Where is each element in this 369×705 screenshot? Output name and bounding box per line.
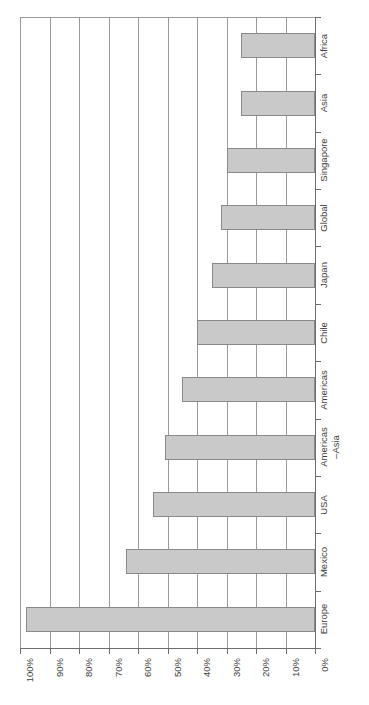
category-axis-label: Mexico [318, 533, 329, 591]
bar [212, 263, 315, 288]
value-axis-tick [79, 648, 80, 654]
category-axis-label: Japan [318, 246, 329, 304]
category-axis-label: Global [318, 189, 329, 247]
category-axis-label: Europe [318, 590, 329, 648]
bar [221, 205, 315, 230]
category-axis-line [315, 17, 316, 648]
gridline [79, 17, 80, 648]
bar [241, 33, 315, 58]
bar-chart: AfricaAsiaSingaporeGlobalJapanChileAmeri… [0, 0, 369, 705]
category-axis-label: Africa [318, 17, 329, 75]
value-axis-tick [227, 648, 228, 654]
value-axis-tick [109, 648, 110, 654]
value-axis-tick-label: 50% [172, 658, 183, 698]
bar [182, 377, 315, 402]
value-axis-tick-label: 70% [113, 658, 124, 698]
value-axis-tick [197, 648, 198, 654]
category-axis-label: Chile [318, 304, 329, 362]
value-axis-tick-label: 60% [142, 658, 153, 698]
value-axis-tick-label: 10% [290, 658, 301, 698]
category-axis-label: Singapore [318, 131, 329, 189]
category-axis-label: Americas –Asia [318, 418, 341, 476]
value-axis-tick-label: 40% [201, 658, 212, 698]
value-axis-tick [20, 648, 21, 654]
category-axis-label: USA [318, 476, 329, 534]
bar [197, 320, 315, 345]
gridline [109, 17, 110, 648]
bar [241, 91, 315, 116]
value-axis-tick-label: 80% [83, 658, 94, 698]
value-axis-tick-label: 100% [24, 658, 35, 698]
bar [126, 549, 315, 574]
value-axis-tick [315, 648, 316, 654]
value-axis-tick [286, 648, 287, 654]
bar [26, 607, 315, 632]
value-axis-tick-label: 90% [54, 658, 65, 698]
value-axis-tick-label: 20% [260, 658, 271, 698]
value-axis-tick [138, 648, 139, 654]
bar [165, 435, 315, 460]
value-axis-tick [256, 648, 257, 654]
bar [227, 148, 316, 173]
value-axis-tick [50, 648, 51, 654]
bar [153, 492, 315, 517]
gridline [50, 17, 51, 648]
category-axis-label: Americas [318, 361, 329, 419]
value-axis-tick [168, 648, 169, 654]
value-axis-tick-label: 0% [319, 658, 330, 698]
category-axis-label: Asia [318, 74, 329, 132]
value-axis-tick-label: 30% [231, 658, 242, 698]
